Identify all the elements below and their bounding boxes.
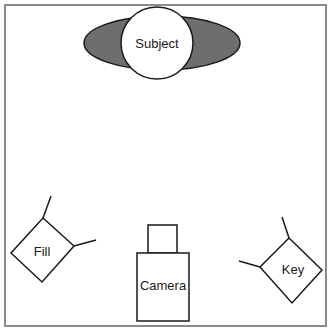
key-light-label: Key — [282, 262, 305, 277]
camera-lens-icon — [148, 225, 177, 253]
lighting-diagram: Subject Fill Key Camera — [0, 0, 330, 328]
subject-label: Subject — [135, 36, 179, 51]
fill-light-label: Fill — [34, 244, 51, 259]
camera-label: Camera — [140, 278, 187, 293]
